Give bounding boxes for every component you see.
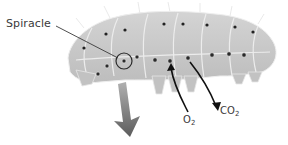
caterpillar-diagram: Spiracle O2 CO2: [0, 0, 288, 145]
spiracle-label: Spiracle: [6, 17, 51, 30]
oxygen-label: O2: [183, 114, 196, 127]
caterpillar-body: [68, 11, 276, 94]
movement-arrow-icon: [114, 82, 140, 137]
carbon-dioxide-label: CO2: [220, 105, 240, 118]
